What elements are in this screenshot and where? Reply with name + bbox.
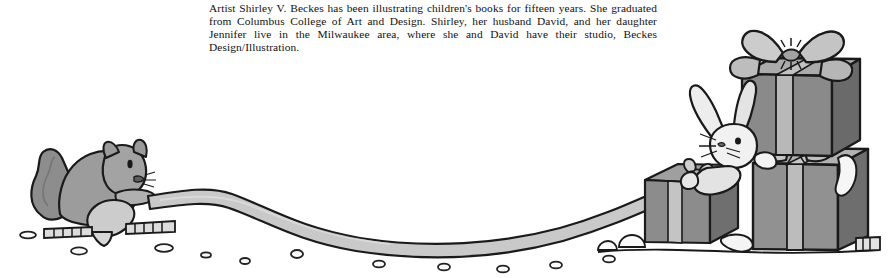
rabbit bbox=[681, 81, 757, 195]
illustration-page: Artist Shirley V. Beckes has been illust… bbox=[0, 0, 889, 278]
ground-mark bbox=[240, 258, 250, 264]
ground-mark bbox=[373, 261, 385, 268]
squirrel-eye bbox=[127, 160, 132, 168]
top-box-ribbon-front bbox=[776, 75, 793, 155]
ribbon-tail-bottom bbox=[721, 235, 753, 252]
ribbon-tail-mid bbox=[754, 152, 776, 168]
large-box-ribbon-front bbox=[787, 164, 803, 250]
ground-mark bbox=[497, 266, 509, 273]
small-box-ribbon-front bbox=[668, 181, 682, 243]
ground-mark bbox=[20, 232, 36, 239]
twig-left bbox=[44, 227, 92, 238]
ground-mark bbox=[71, 247, 87, 254]
rabbit-head bbox=[710, 124, 757, 168]
bow-top-knot bbox=[782, 50, 800, 61]
rabbit-paw bbox=[681, 172, 698, 189]
ground-mark bbox=[550, 262, 562, 269]
twig-right bbox=[126, 221, 175, 234]
ground-mark bbox=[201, 252, 211, 257]
snow-mound-small bbox=[598, 241, 617, 250]
rabbit-nose bbox=[718, 143, 725, 147]
squirrel-foot bbox=[92, 232, 112, 246]
ground-mark bbox=[438, 264, 450, 271]
bow-top-left-extra-loop bbox=[730, 57, 760, 78]
rabbit-eye bbox=[735, 137, 741, 144]
squirrel-whiskers bbox=[144, 172, 156, 187]
ground-mark bbox=[603, 256, 615, 263]
snow-mound-left bbox=[619, 235, 645, 247]
twig-right-base bbox=[856, 237, 880, 251]
ground-mark bbox=[291, 250, 303, 258]
twig-base bbox=[856, 237, 880, 251]
scene-illustration bbox=[0, 0, 889, 278]
squirrel-muzzle bbox=[134, 176, 144, 182]
ground-mark bbox=[155, 244, 173, 252]
bow-top-right-extra-loop bbox=[820, 60, 852, 81]
